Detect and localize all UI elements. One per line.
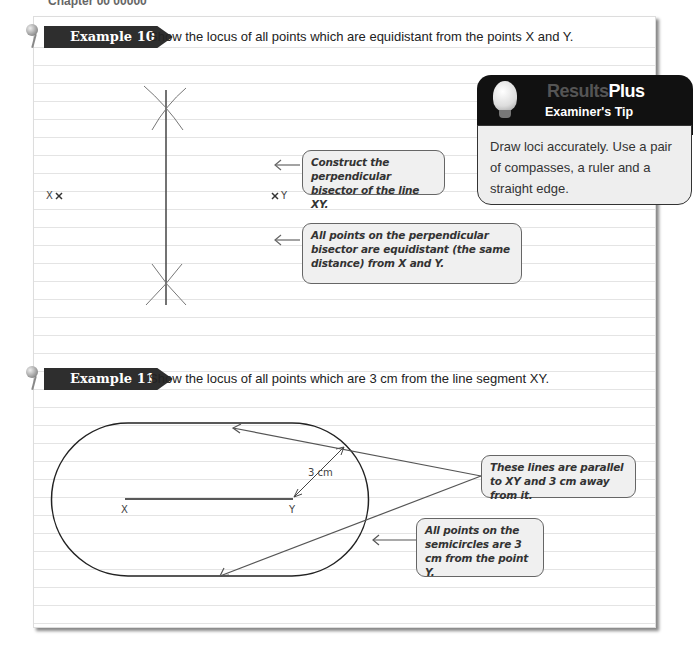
point-x-label: X — [46, 190, 53, 201]
lightbulb-base-icon — [499, 110, 511, 118]
example-11-prompt: Show the locus of all points which are 3… — [149, 371, 549, 386]
brand-prefix: Results — [547, 81, 609, 101]
tip-body: Draw loci accurately. Use a pair of comp… — [477, 125, 692, 205]
callout-equidistant: All points on the perpendicular bisector… — [302, 223, 522, 284]
callout-semicircles: All points on the semicircles are 3 cm f… — [416, 518, 544, 577]
callout-parallel-lines: These lines are parallel to XY and 3 cm … — [481, 455, 636, 498]
point-y-label: Y — [281, 190, 287, 201]
segment-y-label: Y — [289, 504, 295, 515]
examiners-tip-box: ResultsPlus Examiner's Tip Draw loci acc… — [477, 75, 693, 205]
callout-construct-bisector: Construct the perpendicular bisector of … — [302, 150, 445, 195]
tip-title: Examiner's Tip — [545, 105, 633, 119]
resultsplus-logo: ResultsPlus — [547, 81, 645, 102]
segment-x-label: X — [121, 504, 128, 515]
brand-suffix: Plus — [609, 81, 645, 101]
distance-label: 3 cm — [308, 467, 333, 478]
lightbulb-icon — [493, 81, 517, 111]
